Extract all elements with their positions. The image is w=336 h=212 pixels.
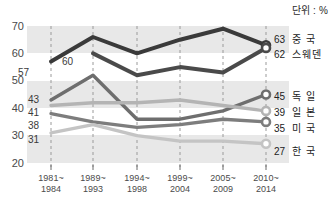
legend-value: 45 [274,92,289,102]
legend-item-5: 27한 국 [274,147,316,157]
x-axis-label-line-0: 2005~ [200,173,246,184]
point-value-label-2: 41 [28,108,39,118]
legend-item-1: 62스웨덴 [274,50,322,60]
legend-item-0: 63중 국 [274,35,316,45]
endpoint-marker-2 [262,91,270,99]
legend-label: 독 일 [292,92,316,102]
point-value-label-1: 43 [28,95,39,105]
x-axis-label-line-0: 2010~ [243,173,289,184]
x-axis-tick-label-1: 1989~1993 [70,173,116,196]
x-axis-label-line-1: 1984 [28,184,74,195]
y-axis-tick-label-5: 70 [2,21,24,32]
legend-item-2: 45독 일 [274,92,316,102]
x-axis-label-line-0: 1989~ [70,173,116,184]
y-axis-tick-label-4: 60 [2,48,24,59]
x-axis-label-line-1: 1993 [70,184,116,195]
x-axis-tick-label-4: 2005~2009 [200,173,246,196]
x-axis-tick-label-2: 1994~1998 [114,173,160,196]
legend-value: 39 [274,108,289,118]
endpoint-marker-3 [262,107,270,115]
endpoint-marker-4 [262,118,270,126]
x-axis-label-line-1: 2004 [157,184,203,195]
x-axis-tick-label-3: 1999~2004 [157,173,203,196]
y-axis-tick-label-1: 30 [2,130,24,141]
point-value-label-3: 38 [28,121,39,131]
endpoint-marker-5 [262,140,270,148]
legend-label: 미 국 [292,124,316,134]
y-axis-tick-label-0: 20 [2,158,24,169]
point-value-label-4: 31 [28,135,39,145]
x-axis-label-line-0: 1994~ [114,173,160,184]
legend-value: 62 [274,50,289,60]
x-axis-tick-label-5: 2010~2014 [243,173,289,196]
point-value-label-0: 57 [18,68,29,78]
endpoint-marker-1 [262,44,270,52]
chart-container: 단위 : % 203040506070 1981~19841989~199319… [0,0,336,212]
x-axis-label-line-1: 1998 [114,184,160,195]
x-axis-ticks [51,165,266,170]
legend-value: 27 [274,147,289,157]
legend-label: 스웨덴 [292,50,322,60]
legend-item-3: 39일 본 [274,108,316,118]
y-axis-tick-label-2: 40 [2,103,24,114]
legend-label: 중 국 [292,35,316,45]
legend-value: 35 [274,124,289,134]
legend-value: 63 [274,35,289,45]
x-axis-label-line-0: 1981~ [28,173,74,184]
legend-label: 일 본 [292,108,316,118]
x-axis-label-line-1: 2014 [243,184,289,195]
point-value-label-5: 60 [62,57,73,67]
x-axis-tick-label-0: 1981~1984 [28,173,74,196]
legend-item-4: 35미 국 [274,124,316,134]
x-axis-label-line-0: 1999~ [157,173,203,184]
legend-label: 한 국 [292,147,316,157]
x-axis-label-line-1: 2009 [200,184,246,195]
